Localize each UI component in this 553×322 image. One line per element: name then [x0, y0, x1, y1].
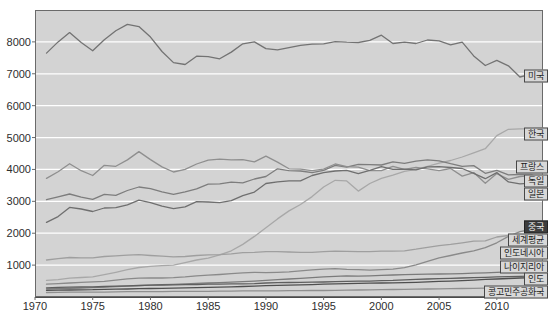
series-label-germany[interactable]: 독일 — [524, 175, 548, 188]
x-tick-label-2000: 2000 — [369, 300, 393, 312]
series-label-indonesia[interactable]: 인도네시아 — [500, 247, 548, 260]
x-tick-label-1980: 1980 — [138, 300, 162, 312]
energy-per-capita-line-chart: 1000200030004000500060007000800019701975… — [0, 0, 553, 322]
y-tick-label-8000: 8000 — [7, 36, 31, 48]
series-label-japan[interactable]: 일본 — [524, 188, 548, 201]
x-tick-label-2010: 2010 — [485, 300, 509, 312]
series-label-korea[interactable]: 한국 — [524, 128, 548, 141]
chart-canvas: 1000200030004000500060007000800019701975… — [0, 0, 553, 322]
y-tick-label-6000: 6000 — [7, 100, 31, 112]
x-tick-label-1985: 1985 — [196, 300, 220, 312]
series-label-india[interactable]: 인도 — [524, 273, 548, 286]
series-label-china[interactable]: 중국 — [524, 221, 548, 234]
plot-area — [35, 10, 543, 297]
y-tick-label-4000: 4000 — [7, 163, 31, 175]
y-tick-label-3000: 3000 — [7, 195, 31, 207]
x-tick-label-2005: 2005 — [427, 300, 451, 312]
x-tick-label-1970: 1970 — [23, 300, 47, 312]
y-tick-label-5000: 5000 — [7, 132, 31, 144]
x-tick-label-1975: 1975 — [80, 300, 104, 312]
y-tick-label-2000: 2000 — [7, 227, 31, 239]
x-tick-label-1995: 1995 — [311, 300, 335, 312]
series-label-world[interactable]: 세계평균 — [508, 234, 548, 247]
y-tick-label-7000: 7000 — [7, 68, 31, 80]
series-label-drcongo[interactable]: 콩고민주공화국 — [484, 286, 548, 299]
series-label-usa[interactable]: 미국 — [524, 70, 548, 83]
x-tick-label-1990: 1990 — [254, 300, 278, 312]
y-tick-label-1000: 1000 — [7, 259, 31, 271]
series-label-france[interactable]: 프랑스 — [516, 161, 548, 174]
